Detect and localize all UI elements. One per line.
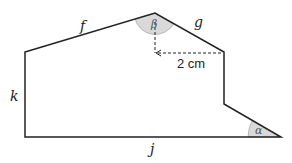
label-g: g: [194, 14, 203, 30]
label-j: j: [147, 141, 155, 157]
label-beta: β: [150, 18, 157, 31]
label-f: f: [79, 18, 88, 34]
label-alpha: α: [255, 124, 263, 137]
label-k: k: [10, 88, 18, 104]
diagram: f g k j β α 2 cm: [0, 0, 292, 163]
measurement-label: 2 cm: [177, 56, 205, 71]
